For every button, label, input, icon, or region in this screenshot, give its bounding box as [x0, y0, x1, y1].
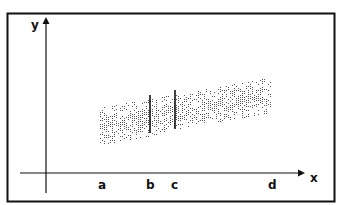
scatter-band	[100, 79, 271, 144]
marker-a: a	[98, 178, 106, 192]
y-axis-arrowhead-icon	[43, 17, 50, 24]
x-axis-label: x	[310, 171, 318, 185]
diagram: y x a b c d	[0, 0, 340, 205]
marker-d: d	[268, 178, 277, 192]
x-axis-arrowhead-icon	[298, 170, 305, 177]
marker-b: b	[146, 178, 155, 192]
marker-c: c	[171, 178, 178, 192]
y-axis-label: y	[31, 18, 39, 32]
